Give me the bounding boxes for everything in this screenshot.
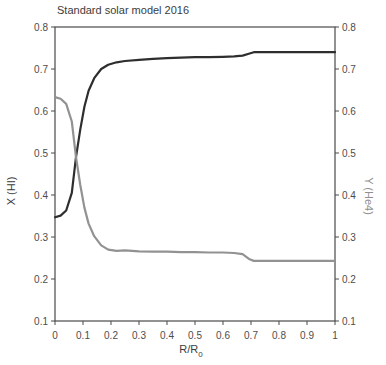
y-left-tick-label: 0.3 (34, 232, 48, 243)
y-right-tick-label: 0.5 (342, 148, 356, 159)
x-tick-label: 0.3 (132, 330, 146, 341)
x-tick-label: 0.4 (160, 330, 174, 341)
y-right-tick-label: 0.2 (342, 274, 356, 285)
x-axis-label: R/R0 (179, 343, 202, 358)
y-right-tick-label: 0.4 (342, 190, 356, 201)
y-left-tick-label: 0.6 (34, 106, 48, 117)
y-left-tick-label: 0.4 (34, 190, 48, 201)
y-right-tick-label: 0.1 (342, 316, 356, 327)
curve-x-hydrogen (55, 52, 335, 217)
y-right-tick-label: 0.6 (342, 106, 356, 117)
x-tick-label: 0.2 (104, 330, 118, 341)
figure: 00.10.20.30.40.50.60.70.80.910.80.80.70.… (0, 0, 386, 365)
y-left-tick-label: 0.7 (34, 64, 48, 75)
x-axis-label-sub: 0 (198, 350, 202, 359)
y-axis-label-right: Y (He4) (363, 177, 375, 215)
x-tick-label: 1 (332, 330, 338, 341)
x-tick-label: 0.6 (216, 330, 230, 341)
chart-title: Standard solar model 2016 (57, 4, 189, 16)
x-tick-label: 0.1 (76, 330, 90, 341)
y-left-tick-label: 0.5 (34, 148, 48, 159)
y-left-tick-label: 0.2 (34, 274, 48, 285)
y-left-tick-label: 0.1 (34, 316, 48, 327)
x-tick-label: 0.8 (272, 330, 286, 341)
y-right-tick-label: 0.7 (342, 64, 356, 75)
y-right-tick-label: 0.8 (342, 22, 356, 33)
plot-svg: 00.10.20.30.40.50.60.70.80.910.80.80.70.… (0, 0, 386, 365)
y-axis-label-left: X (HI) (5, 177, 17, 206)
plot-border (55, 27, 335, 321)
x-tick-label: 0 (52, 330, 58, 341)
x-axis-label-main: R/R (179, 343, 198, 355)
x-tick-label: 0.9 (300, 330, 314, 341)
curve-y-helium (55, 97, 335, 261)
y-right-tick-label: 0.3 (342, 232, 356, 243)
x-tick-label: 0.5 (188, 330, 202, 341)
y-left-tick-label: 0.8 (34, 22, 48, 33)
x-tick-label: 0.7 (244, 330, 258, 341)
